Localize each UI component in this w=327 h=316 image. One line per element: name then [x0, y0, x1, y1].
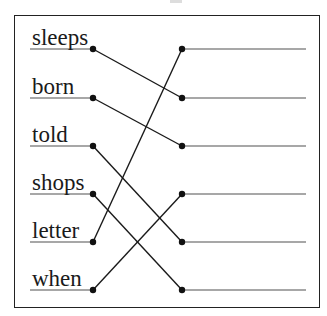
left-dot: [90, 95, 96, 101]
right-dot: [179, 287, 185, 293]
connector-line: [93, 98, 182, 146]
word-told: told: [32, 123, 68, 146]
right-dot: [179, 191, 185, 197]
right-dot: [179, 46, 185, 52]
left-dot: [90, 46, 96, 52]
word-sleeps: sleeps: [32, 26, 88, 49]
word-shops: shops: [32, 171, 84, 194]
left-dot: [90, 191, 96, 197]
connector-line: [93, 146, 182, 242]
word-letter: letter: [32, 219, 79, 242]
left-dot: [90, 287, 96, 293]
connector-line: [93, 49, 182, 242]
right-dot: [179, 143, 185, 149]
right-dot: [179, 95, 185, 101]
word-born: born: [32, 75, 74, 98]
connector-line: [93, 49, 182, 98]
left-dot: [90, 239, 96, 245]
right-dot: [179, 239, 185, 245]
word-when: when: [32, 267, 82, 290]
left-dot: [90, 143, 96, 149]
